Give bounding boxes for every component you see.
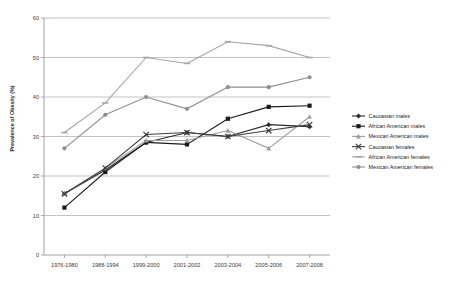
legend-item-african-american-females[interactable]: African American females [352, 154, 430, 160]
x-tick-label: 2005-2006 [255, 262, 282, 268]
y-tick-label: 30 [33, 134, 39, 140]
legend-label: Caucasian males [369, 113, 411, 119]
y-tick-label: 50 [33, 55, 39, 61]
data-point-marker [103, 113, 107, 117]
data-point-marker [62, 206, 66, 210]
x-tick-label: 2007-2008 [296, 262, 323, 268]
chart-container: 0102030405060 1976-19801988-19941999-200… [0, 0, 467, 285]
x-tick-label: 2003-2004 [214, 262, 241, 268]
data-series [61, 41, 312, 210]
legend-label: Mexican American females [369, 164, 434, 170]
series-line [64, 106, 309, 208]
y-axis-title: Prevalence of Obesity (%) [9, 85, 15, 151]
series-mexican-american-males [62, 114, 312, 196]
data-point-marker [62, 146, 66, 150]
data-point-marker [102, 102, 108, 104]
data-point-marker [143, 57, 149, 59]
data-point-marker [267, 105, 271, 109]
data-point-marker [355, 156, 361, 158]
data-point-marker [266, 45, 272, 47]
x-tick-label: 2001-2002 [174, 262, 201, 268]
legend-item-caucasian-males[interactable]: Caucasian males [352, 113, 410, 119]
y-tick-label: 0 [36, 252, 39, 258]
x-tick-label: 1988-1994 [92, 262, 119, 268]
data-point-marker [184, 63, 190, 65]
y-axis-title-text: Prevalence of Obesity (%) [9, 85, 15, 151]
data-point-marker [356, 124, 360, 128]
legend-label: Mexican American males [369, 133, 429, 139]
series-caucasian-females [62, 122, 313, 197]
y-tick-label: 20 [33, 173, 39, 179]
data-point-marker [307, 104, 311, 108]
legend-item-african-american-males[interactable]: African American males [352, 123, 425, 129]
line-chart: 0102030405060 1976-19801988-19941999-200… [0, 0, 467, 285]
y-tick-label: 60 [33, 15, 39, 21]
legend-item-caucasian-females[interactable]: Caucasian females [352, 144, 415, 150]
data-point-marker [307, 114, 312, 119]
x-axis-ticks: 1976-19801988-19941999-20002001-20022003… [51, 255, 323, 268]
data-point-marker [267, 85, 271, 89]
series-line [64, 42, 309, 133]
data-point-marker [61, 132, 67, 134]
data-point-marker [103, 170, 107, 174]
data-point-marker [307, 75, 311, 79]
y-tick-label: 40 [33, 94, 39, 100]
legend-item-mexican-american-males[interactable]: Mexican American males [352, 133, 429, 139]
data-point-marker [185, 142, 189, 146]
chart-legend: Caucasian malesAfrican American malesMex… [352, 113, 433, 170]
data-point-marker [266, 122, 271, 127]
data-point-marker [225, 128, 230, 133]
data-point-marker [306, 57, 312, 59]
x-tick-label: 1999-2000 [133, 262, 160, 268]
data-point-marker [356, 114, 361, 119]
data-point-marker [226, 85, 230, 89]
data-point-marker [356, 165, 360, 169]
data-point-marker [226, 117, 230, 121]
series-line [64, 77, 309, 148]
legend-label: African American males [369, 123, 426, 129]
data-point-marker [225, 41, 231, 43]
series-line [64, 117, 309, 194]
figure-caption [4, 276, 463, 285]
legend-label: Caucasian females [369, 144, 415, 150]
legend-label: African American females [369, 154, 430, 160]
y-axis-ticks: 0102030405060 [33, 15, 44, 258]
x-tick-label: 1976-1980 [51, 262, 78, 268]
data-point-marker [144, 95, 148, 99]
legend-item-mexican-american-females[interactable]: Mexican American females [352, 164, 433, 170]
y-tick-label: 10 [33, 213, 39, 219]
data-point-marker [185, 107, 189, 111]
